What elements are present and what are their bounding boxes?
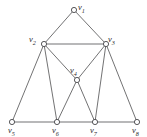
graph-vertex-v8 [134, 119, 139, 124]
graph-edge-v1-v3 [74, 10, 106, 44]
vertex-label-subscript: 2 [33, 39, 36, 46]
graph-vertex-v6 [54, 119, 59, 124]
vertex-label-v2: v2 [29, 35, 36, 46]
graph-edge-v2-v5 [12, 44, 44, 122]
graph-vertex-v5 [9, 119, 14, 124]
vertex-label-v4: v4 [70, 66, 77, 77]
vertex-label-v7: v7 [90, 126, 97, 137]
vertex-label-v6: v6 [52, 126, 59, 137]
graph-vertex-v1 [71, 7, 76, 12]
graph-vertex-v7 [92, 119, 97, 124]
graph-vertex-v4 [74, 77, 79, 82]
vertex-label-subscript: 8 [136, 130, 139, 137]
vertex-label-subscript: 5 [12, 130, 15, 137]
vertex-label-v8: v8 [132, 126, 139, 137]
graph-edge-v1-v2 [44, 10, 74, 44]
graph-edge-v4-v7 [77, 80, 95, 122]
vertex-label-subscript: 7 [94, 130, 97, 137]
graph-figure: v1v2v3v4v5v6v7v8 [0, 0, 147, 137]
vertex-label-v5: v5 [8, 126, 15, 137]
vertex-label-subscript: 4 [74, 70, 77, 77]
graph-edge-v3-v8 [106, 44, 137, 122]
vertex-label-v1: v1 [78, 3, 85, 14]
vertex-label-subscript: 1 [82, 7, 85, 14]
vertex-label-subscript: 3 [112, 39, 115, 46]
graph-edge-v4-v6 [57, 80, 77, 122]
vertex-label-v3: v3 [108, 35, 115, 46]
graph-vertex-v2 [41, 41, 46, 46]
vertex-label-subscript: 6 [56, 130, 59, 137]
